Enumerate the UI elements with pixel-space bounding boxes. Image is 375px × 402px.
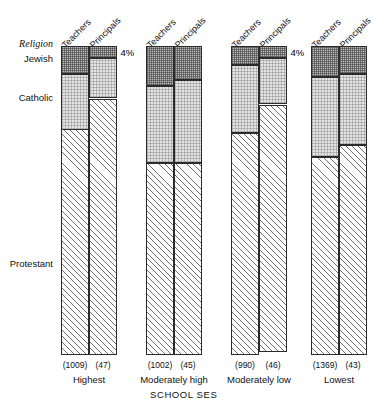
- row-label-protestant: Protestant: [10, 258, 53, 269]
- column-header-principals-3: Principals: [338, 15, 373, 50]
- row-label-jewish: Jewish: [24, 53, 53, 64]
- segment-catholic: [89, 58, 117, 98]
- segment-catholic: [231, 65, 259, 133]
- column-header-principals-0: Principals: [88, 15, 123, 50]
- column-header-principals-1: Principals: [173, 15, 208, 50]
- segment-protestant: [61, 129, 89, 355]
- segment-catholic: [61, 74, 89, 130]
- segment-catholic: [259, 58, 287, 104]
- n-label-principals-2: (46): [252, 360, 294, 370]
- segment-jewish: [339, 46, 367, 74]
- segment-jewish: [146, 46, 174, 86]
- segment-protestant: [146, 163, 174, 355]
- segment-jewish: [311, 46, 339, 77]
- bar-moderately-high-teachers: [146, 46, 174, 355]
- column-header-principals-2: Principals: [258, 15, 293, 50]
- segment-catholic: [174, 80, 202, 163]
- n-label-principals-3: (43): [332, 360, 374, 370]
- bar-moderately-high-principals: [174, 46, 202, 355]
- segment-jewish: [231, 46, 259, 65]
- bar-lowest-teachers: [311, 46, 339, 355]
- bar-highest-principals: [89, 46, 117, 355]
- n-label-principals-1: (45): [167, 360, 209, 370]
- row-label-catholic: Catholic: [19, 92, 53, 103]
- bar-lowest-principals: [339, 46, 367, 355]
- row-axis-label: Religion: [19, 38, 53, 49]
- segment-jewish: [89, 46, 117, 58]
- group-caption-lowest: Lowest: [281, 374, 375, 385]
- segment-protestant: [231, 133, 259, 355]
- n-label-principals-0: (47): [82, 360, 124, 370]
- segment-protestant: [339, 145, 367, 355]
- segment-protestant: [89, 99, 117, 355]
- value-label-jewish: 4%: [120, 47, 135, 58]
- segment-jewish: [174, 46, 202, 80]
- segment-catholic: [146, 86, 174, 163]
- segment-jewish: [61, 46, 89, 74]
- segment-jewish: [259, 46, 287, 58]
- bar-moderately-low-teachers: [231, 46, 259, 355]
- bar-highest-teachers: [61, 46, 89, 355]
- segment-catholic: [311, 77, 339, 157]
- bar-moderately-low-principals: [259, 46, 287, 355]
- x-axis-title: SCHOOL SES: [150, 389, 217, 400]
- segment-protestant: [311, 157, 339, 355]
- segment-protestant: [174, 163, 202, 355]
- value-label-jewish: 4%: [290, 47, 305, 58]
- segment-catholic: [339, 74, 367, 145]
- segment-protestant: [259, 105, 287, 352]
